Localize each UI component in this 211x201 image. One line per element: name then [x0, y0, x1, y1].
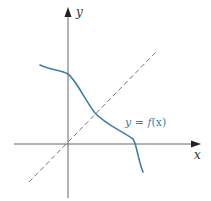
- y-axis-label: y: [75, 5, 83, 19]
- y-axis: [65, 7, 72, 198]
- x-axis-arrow-icon: [191, 141, 201, 148]
- x-axis: [14, 141, 201, 148]
- curve-label: y = f(x): [124, 116, 166, 129]
- y-axis-arrow-icon: [65, 7, 72, 17]
- x-axis-label: x: [194, 148, 201, 162]
- function-graph: y x y = f(x): [0, 0, 211, 201]
- curve-label-arg: (x): [152, 116, 167, 129]
- curve-label-eq: =: [131, 116, 147, 129]
